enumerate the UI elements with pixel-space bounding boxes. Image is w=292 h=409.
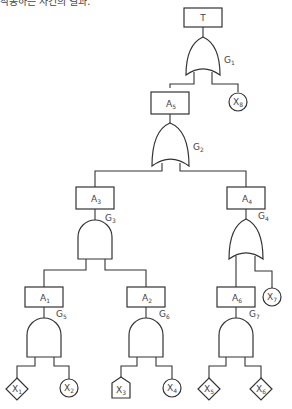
fault-tree-diagram: T A5 A3 A4 A1 A2 A6 G1 G2 G4 G3 [0,0,292,409]
basic-event-X4: X4 [163,379,181,397]
svg-text:G5: G5 [56,309,67,320]
event-T: T [184,8,222,27]
or-gate-G4: G4 [229,211,269,259]
event-A1: A1 [25,287,63,307]
svg-text:G2: G2 [193,142,204,153]
svg-text:G1: G1 [224,55,235,66]
event-A6: A6 [217,287,255,307]
and-gate-G5: G5 [27,309,67,357]
svg-text:G6: G6 [159,309,170,320]
event-A3: A3 [76,187,114,209]
basic-event-X5: X5 [198,378,220,400]
basic-event-X2: X2 [60,379,78,397]
svg-text:T: T [199,13,206,23]
basic-event-X8: X8 [229,93,247,111]
basic-event-X3: X3 [112,377,130,398]
svg-text:G7: G7 [249,309,260,320]
event-A2: A2 [127,287,165,307]
event-A5: A5 [151,92,189,114]
and-gate-G3: G3 [78,213,116,259]
or-gate-G2: G2 [152,123,204,166]
svg-text:G4: G4 [258,211,269,222]
and-gate-G6: G6 [129,309,170,357]
basic-event-X1: X1 [6,378,28,400]
basic-event-X6: X6 [250,378,272,400]
or-gate-G1: G1 [186,37,235,75]
basic-event-X7: X7 [263,288,281,306]
svg-text:G3: G3 [105,213,116,224]
event-A4: A4 [227,187,265,209]
and-gate-G7: G7 [219,309,260,357]
